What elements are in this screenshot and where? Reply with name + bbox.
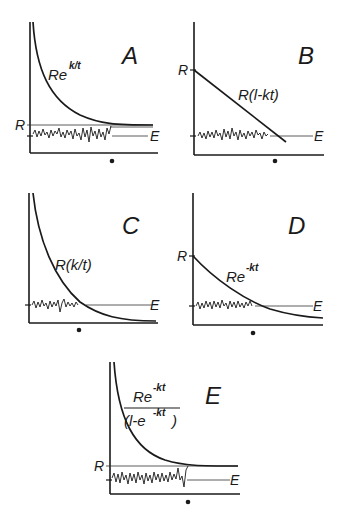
denominator-close: ) <box>170 412 177 429</box>
e-label: E <box>314 128 324 144</box>
r-label: R <box>178 62 188 78</box>
noise-trace <box>198 128 268 140</box>
formula: R(l-kt) <box>238 86 279 103</box>
noise-trace <box>112 466 188 487</box>
e-label: E <box>150 128 160 144</box>
crossing-dot <box>273 159 278 164</box>
e-label: E <box>313 298 323 314</box>
r-label: R <box>94 458 104 474</box>
crossing-dot <box>251 331 256 336</box>
panel-letter: A <box>120 42 138 69</box>
panel-letter: D <box>288 212 305 239</box>
denominator-exponent: -kt <box>153 407 166 418</box>
crossing-dot <box>110 159 115 164</box>
noise-trace <box>196 300 252 309</box>
panel-c: E R(k/t) C <box>25 193 160 332</box>
e-label: E <box>230 472 240 488</box>
crossing-dot <box>77 328 82 333</box>
numerator-base: Re <box>133 388 152 405</box>
formula-exponent: -kt <box>246 262 259 273</box>
panel-letter: C <box>122 212 140 239</box>
panel-a: R E Re k/t A <box>15 22 160 163</box>
formula-base: Re <box>48 66 67 83</box>
noise-trace <box>32 299 78 312</box>
e-label: E <box>150 297 160 313</box>
r-label: R <box>177 248 187 264</box>
denominator-base: (l-e <box>124 412 146 429</box>
panel-d: R E Re -kt D <box>177 193 323 335</box>
r-label: R <box>15 117 25 133</box>
panel-e: R E Re -kt (l-e -kt ) E <box>94 362 240 504</box>
crossing-dot <box>186 500 191 505</box>
panel-letter: B <box>298 42 314 69</box>
formula: R(k/t) <box>55 256 92 273</box>
formula-base: Re <box>226 268 245 285</box>
panel-letter: E <box>205 382 222 409</box>
noise-trace <box>33 126 111 142</box>
numerator-exponent: -kt <box>153 382 166 393</box>
formula-exponent: k/t <box>69 60 81 71</box>
panel-b: R E R(l-kt) B <box>178 22 324 163</box>
figure: R E Re k/t A R E R(l-kt) B E R(k/t) C <box>0 0 340 514</box>
